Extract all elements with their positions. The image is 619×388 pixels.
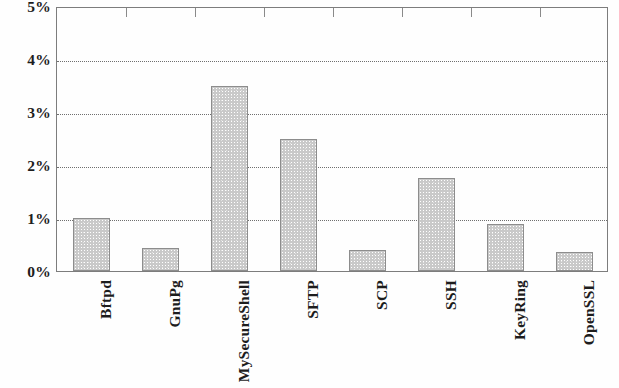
bar	[142, 248, 180, 271]
bar	[349, 250, 387, 271]
x-axis-category-label: SFTP	[305, 280, 321, 319]
x-axis-category-label: SCP	[374, 280, 390, 310]
y-axis-tick-label: 4%	[1, 52, 51, 68]
x-axis-category-label: Bftpd	[98, 280, 114, 319]
bar-series	[57, 8, 607, 271]
bar	[556, 252, 594, 271]
y-axis: 0%1%2%3%4%5%	[0, 0, 54, 388]
y-axis-tick-label: 5%	[1, 0, 51, 15]
x-axis-category-label: GnuPg	[167, 280, 183, 328]
y-axis-tick-label: 1%	[1, 211, 51, 227]
bar-chart: 0%1%2%3%4%5% BftpdGnuPgMySecureShellSFTP…	[0, 0, 619, 388]
x-axis: BftpdGnuPgMySecureShellSFTPSCPSSHKeyRing…	[56, 272, 608, 388]
y-axis-tick-label: 0%	[1, 264, 51, 280]
bar	[280, 139, 318, 272]
y-axis-tick-label: 3%	[1, 105, 51, 121]
x-axis-category-label: MySecureShell	[236, 280, 252, 382]
y-axis-tick-label: 2%	[1, 158, 51, 174]
bar	[418, 178, 456, 271]
x-axis-category-label: SSH	[443, 280, 459, 310]
x-axis-category-label: KeyRing	[512, 280, 528, 340]
bar	[73, 218, 111, 271]
bar	[487, 224, 525, 271]
bar	[211, 86, 249, 272]
plot-area	[56, 7, 608, 272]
x-axis-category-label: OpenSSL	[581, 280, 597, 345]
